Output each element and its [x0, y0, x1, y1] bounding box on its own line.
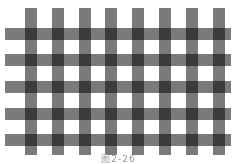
grid-pattern-figure: [0, 0, 237, 164]
horizontal-bar-1: [5, 28, 231, 40]
horizontal-bar-3: [5, 81, 231, 93]
horizontal-bar-2: [5, 54, 231, 66]
horizontal-bar-4: [5, 108, 231, 120]
figure-caption: 图2-26: [0, 152, 237, 164]
horizontal-bar-5: [5, 134, 231, 146]
